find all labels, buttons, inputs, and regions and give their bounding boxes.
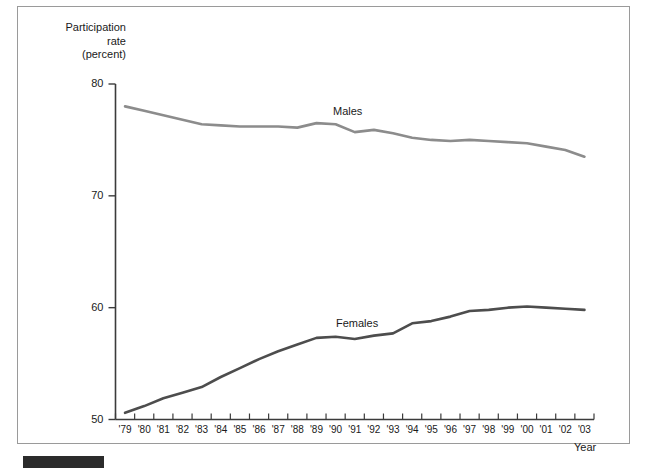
x-tick-label: '01 (536, 424, 556, 435)
x-tick-label: '99 (498, 424, 518, 435)
figure-frame: Participationrate(percent) Year Males Fe… (17, 6, 630, 444)
x-tick-label: '95 (421, 424, 441, 435)
series-label-females: Females (336, 317, 378, 329)
x-tick-label: '91 (345, 424, 365, 435)
x-tick-label: '02 (555, 424, 575, 435)
x-tick-label: '98 (479, 424, 499, 435)
x-tick-label: '81 (153, 424, 173, 435)
y-tick-label: 70 (82, 189, 104, 201)
x-tick-label: '79 (115, 424, 135, 435)
x-tick-label: '93 (383, 424, 403, 435)
axes (116, 84, 595, 420)
y-tick-label: 60 (82, 301, 104, 313)
x-tick-marks (116, 414, 595, 420)
x-tick-label: '80 (134, 424, 154, 435)
chart-page: Participationrate(percent) Year Males Fe… (0, 0, 649, 474)
x-tick-label: '87 (268, 424, 288, 435)
y-tick-label: 50 (82, 413, 104, 425)
x-tick-label: '85 (230, 424, 250, 435)
x-tick-label: '89 (306, 424, 326, 435)
line-chart-plot (18, 7, 629, 443)
y-axis-title: Participationrate(percent) (36, 21, 126, 62)
x-tick-label: '84 (211, 424, 231, 435)
x-tick-label: '00 (517, 424, 537, 435)
x-tick-label: '94 (402, 424, 422, 435)
x-tick-label: '96 (440, 424, 460, 435)
data-series-group (125, 106, 584, 412)
source-redaction-bar (23, 456, 104, 468)
x-tick-label: '97 (460, 424, 480, 435)
x-tick-label: '90 (326, 424, 346, 435)
y-tick-marks (109, 84, 116, 420)
x-tick-label: '83 (192, 424, 212, 435)
x-tick-label: '92 (364, 424, 384, 435)
series-label-males: Males (333, 105, 362, 117)
x-tick-label: '82 (172, 424, 192, 435)
x-axis-title: Year (574, 441, 596, 455)
y-tick-label: 80 (82, 77, 104, 89)
x-tick-label: '88 (287, 424, 307, 435)
x-tick-label: '86 (249, 424, 269, 435)
x-tick-label: '03 (574, 424, 594, 435)
